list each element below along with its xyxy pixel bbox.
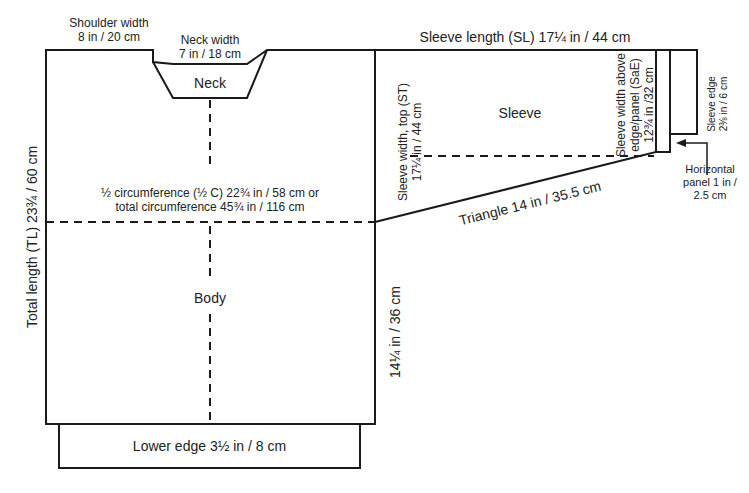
- total-length-label: Total length (TL) 23¾ / 60 cm: [24, 137, 40, 337]
- sleeve-width-top-value: 17¼ in / 44 cm: [410, 72, 424, 212]
- half-circumference-line2: total circumference 45¾ in / 116 cm: [60, 200, 360, 214]
- horizontal-panel-outline: [656, 50, 670, 152]
- sleeve-edge-value: 2⅜ in / 6 cm: [718, 64, 730, 144]
- neck-width-title: Neck width: [160, 33, 260, 47]
- sae-line1: Sleeve width above: [614, 35, 628, 175]
- sleeve-edge-label: Sleeve edge 2⅜ in / 6 cm: [706, 64, 730, 144]
- neck-width-label: Neck width 7 in / 18 cm: [160, 33, 260, 61]
- sleeve-length-label: Sleeve length (SL) 17¼ in / 44 cm: [400, 29, 650, 45]
- sleeve-width-top-label: Sleeve width, top (ST) 17¼ in / 44 cm: [396, 72, 424, 212]
- neck-width-value: 7 in / 18 cm: [160, 47, 260, 61]
- horizontal-panel-line2: panel 1 in /: [672, 176, 748, 189]
- lower-edge-label: Lower edge 3½ in / 8 cm: [59, 438, 360, 454]
- horizontal-panel-line3: 2.5 cm: [672, 189, 748, 202]
- panel-arrow-head: [676, 139, 686, 147]
- neck-label: Neck: [170, 75, 250, 91]
- side-length-label: 14¼ in / 36 cm: [387, 262, 403, 402]
- half-circumference-line1: ½ circumference (½ C) 22¾ in / 58 cm or: [60, 186, 360, 200]
- shoulder-width-label: Shoulder width 8 in / 20 cm: [54, 16, 164, 44]
- sae-line2: edge/panel (SaE): [628, 35, 642, 175]
- sae-line3: 12¾ in /32 cm: [642, 35, 656, 175]
- shoulder-width-value: 8 in / 20 cm: [54, 30, 164, 44]
- sleeve-width-above-edge-label: Sleeve width above edge/panel (SaE) 12¾ …: [614, 35, 656, 175]
- shoulder-width-title: Shoulder width: [54, 16, 164, 30]
- sleeve-width-top-title: Sleeve width, top (ST): [396, 72, 410, 212]
- body-label: Body: [170, 290, 250, 306]
- half-circumference-label: ½ circumference (½ C) 22¾ in / 58 cm or …: [60, 186, 360, 214]
- horizontal-panel-line1: Horizontal: [672, 163, 748, 176]
- horizontal-panel-label: Horizontal panel 1 in / 2.5 cm: [672, 163, 748, 202]
- sleeve-edge-title: Sleeve edge: [706, 64, 718, 144]
- sleeve-label: Sleeve: [480, 105, 560, 121]
- sleeve-edge-outline: [670, 50, 697, 134]
